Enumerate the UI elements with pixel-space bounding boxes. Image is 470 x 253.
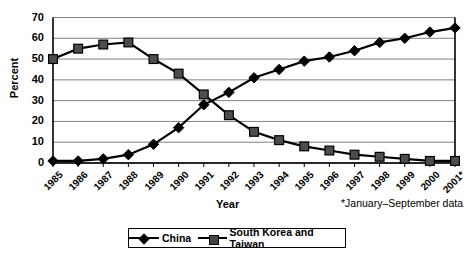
diamond-marker-icon	[374, 37, 384, 47]
series-line	[53, 42, 455, 160]
square-marker-icon	[375, 152, 384, 161]
square-marker-icon	[300, 142, 309, 151]
legend-label-south-korea-and-taiwan: South Korea and Taiwan	[230, 226, 345, 250]
diamond-marker-icon	[349, 46, 359, 56]
diamond-marker-icon	[450, 23, 460, 33]
square-marker-icon	[325, 146, 334, 155]
chart-container: Percent 010203040506070 1985198619871988…	[0, 0, 470, 253]
square-marker-icon	[124, 38, 133, 47]
legend-line-diamond-icon	[129, 237, 159, 239]
square-marker-icon	[275, 136, 284, 145]
legend-line-square-icon	[198, 237, 226, 239]
diamond-marker-icon	[123, 149, 133, 159]
square-marker-icon	[250, 127, 259, 136]
square-marker-icon	[224, 111, 233, 120]
legend-item-south-korea-and-taiwan: South Korea and Taiwan	[198, 226, 345, 250]
diamond-marker-icon	[224, 87, 234, 97]
series-south-korea-and-taiwan	[49, 38, 460, 165]
square-marker-icon	[350, 150, 359, 159]
chart-legend: China South Korea and Taiwan	[128, 228, 346, 248]
square-marker-icon	[400, 154, 409, 163]
square-marker-icon	[49, 55, 58, 64]
series-line	[53, 28, 455, 161]
square-marker-icon	[199, 90, 208, 99]
square-marker-icon	[99, 40, 108, 49]
diamond-marker-icon	[324, 52, 334, 62]
diamond-marker-icon	[48, 156, 58, 166]
square-marker-icon	[174, 69, 183, 78]
square-marker-icon	[425, 157, 434, 166]
diamond-marker-icon	[138, 233, 149, 244]
square-marker-icon	[149, 55, 158, 64]
diamond-marker-icon	[425, 27, 435, 37]
square-marker-icon	[451, 157, 460, 166]
plot-area	[0, 0, 470, 253]
chart-footnote: *January–September data	[341, 197, 463, 209]
diamond-marker-icon	[299, 56, 309, 66]
diamond-marker-icon	[249, 73, 259, 83]
square-marker-icon	[74, 44, 83, 53]
diamond-marker-icon	[73, 156, 83, 166]
legend-item-china: China	[129, 232, 191, 244]
diamond-marker-icon	[400, 33, 410, 43]
x-axis-title: Year	[216, 198, 239, 210]
diamond-marker-icon	[274, 64, 284, 74]
square-marker-icon	[209, 235, 219, 245]
legend-label-china: China	[162, 232, 191, 244]
